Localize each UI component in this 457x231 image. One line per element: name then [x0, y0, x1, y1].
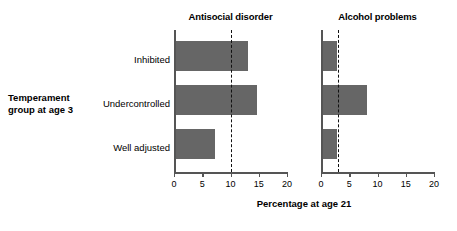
- bar-antisocial-undercontrolled: [175, 85, 257, 115]
- panel-alcohol-problems: 05101520: [321, 30, 434, 172]
- x-tick-alcohol-problems-20: [434, 172, 435, 177]
- x-tick-alcohol-problems-15: [406, 172, 407, 177]
- x-tick-label-antisocial-disorder-0: 0: [171, 179, 176, 189]
- x-tick-label-alcohol-problems-10: 10: [372, 179, 382, 189]
- x-tick-label-alcohol-problems-20: 20: [429, 179, 439, 189]
- chart-figure: Antisocial disorder Alcohol problems Tem…: [0, 0, 457, 231]
- bar-antisocial-well-adjusted: [175, 129, 215, 159]
- x-tick-label-antisocial-disorder-20: 20: [282, 179, 292, 189]
- x-axis-title: Percentage at age 21: [174, 198, 434, 209]
- x-tick-antisocial-disorder-5: [202, 172, 203, 177]
- bar-antisocial-inhibited: [175, 41, 248, 71]
- bar-alcohol-well-adjusted: [322, 129, 337, 159]
- x-tick-antisocial-disorder-15: [259, 172, 260, 177]
- plot-area-alcohol-problems: 05101520: [321, 30, 434, 172]
- x-tick-antisocial-disorder-0: [174, 172, 175, 177]
- x-tick-alcohol-problems-10: [378, 172, 379, 177]
- plot-area-antisocial-disorder: 05101520: [174, 30, 287, 172]
- category-label-group: Inhibited Undercontrolled Well adjusted: [4, 0, 170, 231]
- category-axis-line-right: [321, 30, 323, 172]
- x-tick-alcohol-problems-0: [321, 172, 322, 177]
- reference-line-antisocial: [231, 30, 232, 172]
- category-label-undercontrolled: Undercontrolled: [10, 98, 170, 109]
- x-tick-label-alcohol-problems-0: 0: [318, 179, 323, 189]
- x-tick-label-alcohol-problems-5: 5: [347, 179, 352, 189]
- category-axis-line-left: [174, 30, 176, 172]
- category-label-inhibited: Inhibited: [10, 54, 170, 65]
- x-tick-label-antisocial-disorder-10: 10: [225, 179, 235, 189]
- x-tick-label-antisocial-disorder-5: 5: [200, 179, 205, 189]
- reference-line-alcohol: [338, 30, 339, 172]
- x-tick-antisocial-disorder-20: [287, 172, 288, 177]
- bar-alcohol-undercontrolled: [322, 85, 367, 115]
- x-tick-label-alcohol-problems-15: 15: [401, 179, 411, 189]
- category-label-well-adjusted: Well adjusted: [10, 142, 170, 153]
- x-tick-antisocial-disorder-10: [231, 172, 232, 177]
- bar-alcohol-inhibited: [322, 41, 337, 71]
- x-tick-alcohol-problems-5: [349, 172, 350, 177]
- panel-title-alcohol-problems: Alcohol problems: [321, 11, 434, 22]
- x-tick-label-antisocial-disorder-15: 15: [254, 179, 264, 189]
- panel-title-antisocial-disorder: Antisocial disorder: [174, 11, 287, 22]
- panel-antisocial-disorder: 05101520: [174, 30, 287, 172]
